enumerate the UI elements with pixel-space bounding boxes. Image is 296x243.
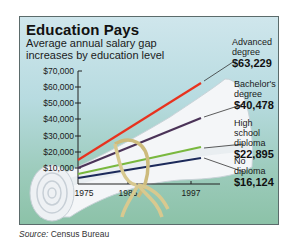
y-tick-50000: $50,000: [43, 98, 74, 108]
label-advanced-value: $63,229: [232, 57, 278, 69]
y-tick-30000: $30,000: [43, 131, 74, 141]
label-no-diploma: No diploma $16,124: [234, 156, 278, 188]
label-bachelors-value: $40,478: [234, 99, 278, 111]
label-nodiploma-name: No diploma: [234, 156, 266, 176]
y-tick-40000: $40,000: [43, 114, 74, 124]
label-advanced-name: Advanced degree: [232, 37, 272, 57]
y-tick-60000: $60,000: [43, 82, 74, 92]
y-tick-20000: $20,000: [43, 147, 74, 157]
label-advanced-degree: Advanced degree $63,229: [232, 37, 278, 69]
source-note: Source: Census Bureau: [19, 229, 109, 239]
chart-frame: Education Pays Average annual salary gap…: [19, 16, 279, 225]
label-nodiploma-value: $16,124: [234, 176, 278, 188]
y-tick-10000: $10,000: [43, 163, 74, 173]
source-prefix: Source:: [19, 229, 48, 239]
x-tick-1975: 1975: [75, 188, 94, 198]
label-bachelors-degree: Bachelor's degree $40,478: [234, 79, 278, 111]
source-name: Census Bureau: [51, 229, 110, 239]
label-high-school-diploma: High school diploma $22,895: [234, 118, 278, 160]
label-highschool-name: High school diploma: [234, 118, 266, 148]
x-tick-1997: 1997: [182, 188, 201, 198]
label-bachelors-name: Bachelor's degree: [234, 79, 276, 99]
y-tick-70000: $70,000: [43, 66, 74, 76]
